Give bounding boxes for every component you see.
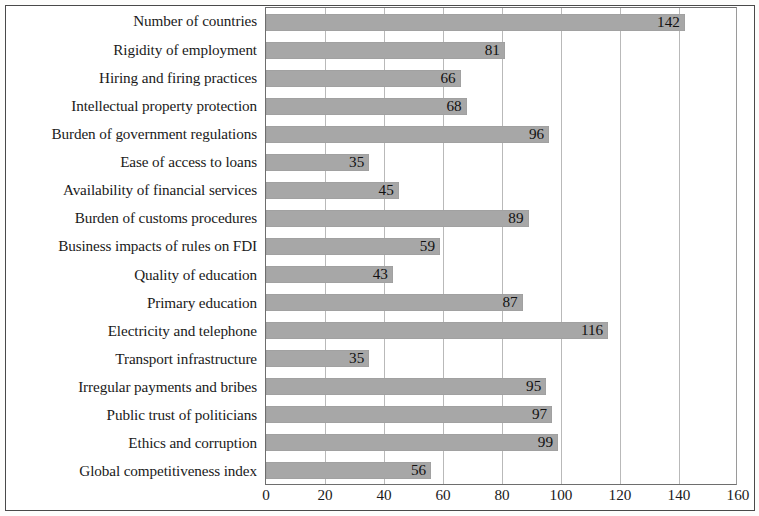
bar-value-label: 89: [508, 210, 523, 225]
bar-row: 97: [266, 400, 736, 428]
bar: 43: [266, 266, 393, 283]
x-tick-label: 80: [494, 487, 509, 502]
category-label: Global competitiveness index: [6, 457, 263, 485]
bar-row: 59: [266, 232, 736, 260]
category-label: Electricity and telephone: [6, 316, 263, 344]
category-axis: Number of countriesRigidity of employmen…: [6, 7, 263, 485]
category-label: Intellectual property protection: [6, 91, 263, 119]
bar: 89: [266, 210, 529, 227]
bar: 45: [266, 182, 399, 199]
bar-value-label: 35: [349, 350, 364, 365]
category-label: Availability of financial services: [6, 176, 263, 204]
category-label: Business impacts of rules on FDI: [6, 232, 263, 260]
bar: 97: [266, 406, 552, 423]
x-tick-label: 20: [317, 487, 332, 502]
bar-row: 95: [266, 372, 736, 400]
bar-row: 45: [266, 176, 736, 204]
bar-value-label: 56: [411, 462, 426, 477]
bar: 116: [266, 322, 608, 339]
category-label: Burden of customs procedures: [6, 204, 263, 232]
x-tick-label: 120: [609, 487, 632, 502]
bar-value-label: 95: [526, 378, 541, 393]
x-tick-label: 40: [376, 487, 391, 502]
bar-row: 116: [266, 316, 736, 344]
bar-row: 35: [266, 344, 736, 372]
bar: 59: [266, 238, 440, 255]
bar: 87: [266, 294, 523, 311]
category-label: Rigidity of employment: [6, 35, 263, 63]
bar: 99: [266, 434, 558, 451]
bar: 68: [266, 98, 467, 115]
bar-row: 96: [266, 120, 736, 148]
x-tick-label: 100: [550, 487, 573, 502]
bar: 35: [266, 154, 369, 171]
bar-value-label: 35: [349, 154, 364, 169]
bar-chart-figure: Number of countriesRigidity of employmen…: [0, 0, 759, 516]
bar-row: 66: [266, 64, 736, 92]
x-tick-label: 60: [435, 487, 450, 502]
category-label: Ease of access to loans: [6, 148, 263, 176]
bar: 35: [266, 350, 369, 367]
plot-area: 142816668963545895943871163595979956: [265, 7, 737, 485]
bar-value-label: 43: [373, 266, 388, 281]
bar: 66: [266, 70, 461, 87]
bar-value-label: 66: [441, 70, 456, 85]
bar-row: 142: [266, 8, 736, 36]
bar-series: 142816668963545895943871163595979956: [266, 8, 736, 484]
bar-row: 99: [266, 428, 736, 456]
bar-value-label: 81: [485, 42, 500, 57]
bar-value-label: 99: [538, 434, 553, 449]
bar-value-label: 97: [532, 406, 547, 421]
bar-value-label: 116: [581, 322, 603, 337]
bar-value-label: 45: [379, 182, 394, 197]
bar: 56: [266, 462, 431, 479]
bar: 95: [266, 378, 546, 395]
bar-row: 81: [266, 36, 736, 64]
category-label: Ethics and corruption: [6, 429, 263, 457]
bar-row: 87: [266, 288, 736, 316]
category-label: Public trust of politicians: [6, 401, 263, 429]
category-label: Burden of government regulations: [6, 120, 263, 148]
category-label: Irregular payments and bribes: [6, 373, 263, 401]
bar-row: 89: [266, 204, 736, 232]
category-label: Primary education: [6, 288, 263, 316]
bar-value-label: 96: [529, 126, 544, 141]
x-tick-label: 140: [668, 487, 691, 502]
bar-row: 35: [266, 148, 736, 176]
bar-value-label: 142: [657, 14, 680, 29]
bar-value-label: 59: [420, 238, 435, 253]
bar-row: 43: [266, 260, 736, 288]
bar-value-label: 68: [446, 98, 461, 113]
bar-row: 56: [266, 456, 736, 484]
x-tick-label: 0: [262, 487, 270, 502]
value-axis: 020406080100120140160: [265, 487, 737, 511]
category-label: Number of countries: [6, 7, 263, 35]
bar-row: 68: [266, 92, 736, 120]
bar: 142: [266, 14, 685, 31]
x-tick-label: 160: [727, 487, 750, 502]
bar: 81: [266, 42, 505, 59]
chart-body: Number of countriesRigidity of employmen…: [0, 0, 759, 516]
category-label: Quality of education: [6, 260, 263, 288]
bar-value-label: 87: [502, 294, 517, 309]
category-label: Transport infrastructure: [6, 345, 263, 373]
category-label: Hiring and firing practices: [6, 63, 263, 91]
bar: 96: [266, 126, 549, 143]
